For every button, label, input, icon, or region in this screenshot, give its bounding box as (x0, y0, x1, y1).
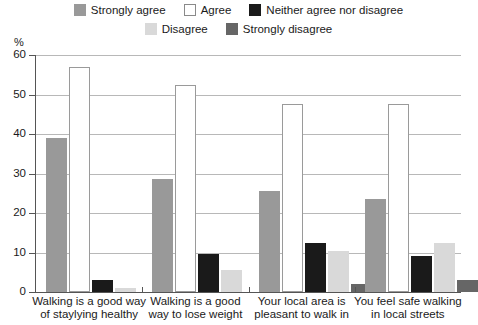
legend-item[interactable]: Strongly disagree (226, 23, 333, 35)
bar[interactable] (92, 280, 113, 292)
y-axis-tick-label: 10 (0, 247, 26, 259)
x-axis-category-label: Walking is a good wayof staylying health… (30, 295, 148, 321)
y-axis-tick-label: 30 (0, 168, 26, 180)
y-axis-tick (29, 174, 35, 175)
bar[interactable] (175, 85, 196, 292)
bar[interactable] (69, 67, 90, 292)
y-axis-tick-label: 0 (0, 286, 26, 298)
y-axis-tick (29, 253, 35, 254)
x-axis-category-label-line: Walking is a good (136, 295, 254, 308)
bar[interactable] (457, 280, 478, 292)
legend-item[interactable]: Neither agree nor disagree (249, 4, 403, 16)
chart-legend: Strongly agreeAgreeNeither agree nor dis… (0, 0, 477, 38)
gridline (36, 95, 461, 96)
bar[interactable] (198, 254, 219, 292)
legend-swatch-icon (74, 4, 86, 16)
x-axis-category-label-line: pleasant to walk in (243, 308, 361, 321)
legend-row: Strongly agreeAgreeNeither agree nor dis… (0, 0, 477, 19)
y-axis-tick (29, 213, 35, 214)
y-axis-tick (29, 134, 35, 135)
x-axis-category-label: Your local area ispleasant to walk in (243, 295, 361, 321)
bar[interactable] (152, 179, 173, 292)
legend-label: Strongly disagree (243, 23, 333, 35)
x-axis-category-label-line: You feel safe walking (349, 295, 467, 308)
y-axis-tick (29, 292, 35, 293)
bar[interactable] (411, 256, 432, 292)
legend-swatch-icon (249, 4, 261, 16)
bar[interactable] (365, 199, 386, 292)
gridline (36, 55, 461, 56)
bar[interactable] (221, 270, 242, 292)
legend-item[interactable]: Agree (184, 4, 232, 16)
y-axis-tick-label: 50 (0, 89, 26, 101)
bar[interactable] (434, 243, 455, 292)
legend-label: Disagree (162, 23, 208, 35)
y-axis-tick-label: 60 (0, 49, 26, 61)
x-axis-category-label: Walking is a goodway to lose weight (136, 295, 254, 321)
x-axis-group-tick (249, 287, 250, 293)
plot-area (36, 55, 461, 292)
bar[interactable] (305, 243, 326, 292)
bar[interactable] (46, 138, 67, 292)
bar[interactable] (388, 104, 409, 292)
x-axis-group-tick (142, 287, 143, 293)
x-axis-category-label-line: way to lose weight (136, 308, 254, 321)
x-axis-category-label-line: Your local area is (243, 295, 361, 308)
legend-label: Strongly agree (91, 4, 166, 16)
legend-label: Agree (201, 4, 232, 16)
legend-label: Neither agree nor disagree (266, 4, 403, 16)
x-axis-category-label-line: of staylying healthy (30, 308, 148, 321)
y-axis-tick (29, 55, 35, 56)
x-axis-category-label-line: Walking is a good way (30, 295, 148, 308)
y-axis-tick-label: 40 (0, 128, 26, 140)
legend-item[interactable]: Strongly agree (74, 4, 166, 16)
legend-item[interactable]: Disagree (145, 23, 208, 35)
y-axis-unit-label: % (14, 36, 24, 48)
x-axis-category-label-line: in local streets (349, 308, 467, 321)
legend-row: DisagreeStrongly disagree (0, 19, 477, 38)
bar[interactable] (115, 288, 136, 292)
y-axis-tick (29, 95, 35, 96)
bar[interactable] (328, 251, 349, 292)
x-axis-group-tick (355, 287, 356, 293)
legend-swatch-icon (226, 23, 238, 35)
bar[interactable] (259, 191, 280, 292)
legend-swatch-icon (184, 4, 196, 16)
legend-swatch-icon (145, 23, 157, 35)
bar[interactable] (282, 104, 303, 292)
y-axis-tick-label: 20 (0, 207, 26, 219)
x-axis-category-label: You feel safe walkingin local streets (349, 295, 467, 321)
